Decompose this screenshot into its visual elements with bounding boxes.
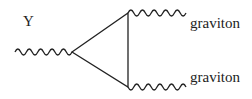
- incoming-label: Y: [23, 14, 34, 29]
- outgoing-wavy-line-top: [128, 10, 186, 16]
- outgoing-wavy-line-bottom: [128, 84, 186, 90]
- outgoing-label-bottom: graviton: [190, 70, 240, 85]
- incoming-wavy-line: [15, 49, 72, 55]
- outgoing-label-top: graviton: [190, 16, 240, 31]
- triangle-loop: [72, 13, 128, 87]
